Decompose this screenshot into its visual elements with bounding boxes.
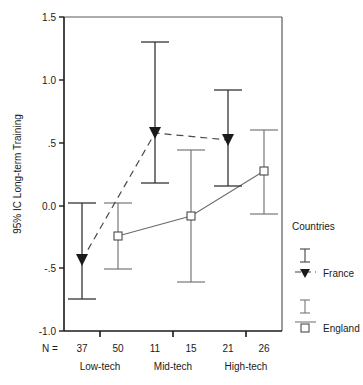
y-axis-title: 95% IC Long-term Training	[12, 114, 23, 234]
plot-frame	[64, 17, 282, 331]
n-value-5: 21	[222, 343, 234, 354]
chart-container: 95% IC Long-term Training 1.5 1.0 .5 0.0…	[0, 0, 363, 385]
legend: Countries France	[292, 221, 360, 334]
n-value-2: 50	[112, 343, 124, 354]
legend-errorbar-england-icon	[300, 300, 310, 313]
n-value-3: 11	[150, 343, 161, 354]
n-value-4: 15	[185, 343, 197, 354]
y-tick-label-2: 1.0	[42, 75, 56, 86]
england-marker-low-tech	[114, 232, 122, 240]
x-group-label-mid-tech: Mid-tech	[154, 361, 192, 372]
plot-axes	[64, 17, 282, 331]
legend-entry-france[interactable]: France	[295, 249, 355, 279]
legend-entry-england[interactable]: England	[295, 300, 360, 334]
x-group-label-low-tech: Low-tech	[80, 361, 121, 372]
england-error-bars	[104, 130, 278, 282]
y-tick-label-1: 1.5	[42, 12, 56, 23]
france-marker-low-tech	[76, 254, 88, 266]
england-marker-mid-tech	[187, 212, 195, 220]
n-value-6: 26	[258, 343, 270, 354]
x-group-label-high-tech: High-tech	[225, 361, 268, 372]
error-bar-line-chart: 95% IC Long-term Training 1.5 1.0 .5 0.0…	[0, 0, 363, 385]
y-tick-label-3: .5	[48, 138, 57, 149]
france-error-bars	[68, 42, 242, 299]
legend-errorbar-france-icon	[300, 249, 310, 262]
series-england	[104, 130, 278, 282]
n-value-1: 37	[76, 343, 88, 354]
legend-title: Countries	[292, 221, 335, 232]
y-tick-label-4: 0.0	[42, 201, 56, 212]
x-axis-ticks	[100, 331, 246, 337]
france-marker-high-tech	[222, 134, 234, 146]
series-france	[68, 42, 242, 299]
legend-label-france: France	[323, 268, 355, 279]
england-marker-high-tech	[260, 167, 268, 175]
y-tick-label-6: -1.0	[39, 326, 57, 337]
legend-label-england: England	[323, 323, 360, 334]
y-tick-label-5: -.5	[44, 263, 56, 274]
legend-marker-france-triangle-icon	[300, 269, 310, 278]
legend-marker-england-square-icon	[301, 324, 309, 332]
n-prefix-label: N =	[42, 343, 58, 354]
